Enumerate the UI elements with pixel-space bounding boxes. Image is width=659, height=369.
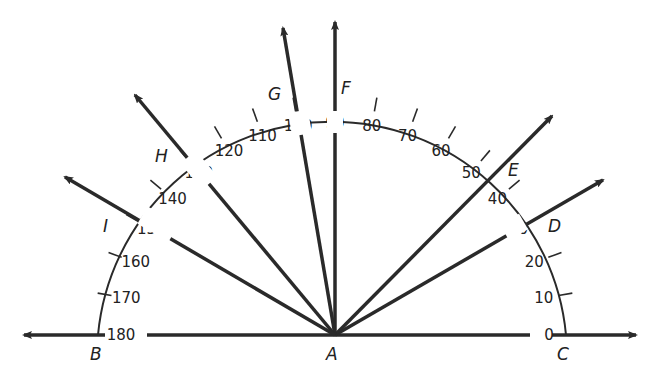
tick-mark [215, 126, 222, 138]
tick-mark [374, 98, 376, 112]
tick-label: 20 [525, 253, 544, 271]
tick-label: 70 [398, 127, 417, 145]
point-label-a: A [325, 344, 338, 364]
tick-label: 110 [248, 127, 277, 145]
tick-mark [413, 109, 418, 122]
point-label-f: F [341, 78, 351, 98]
tick-mark [150, 180, 161, 189]
tick-mark [449, 126, 456, 138]
point-label-d: D [548, 216, 561, 236]
tick-label: 50 [462, 164, 481, 182]
tick-label: 180 [107, 326, 136, 344]
tick-label: 10 [534, 289, 553, 307]
tick-label: 60 [431, 142, 450, 160]
protractor-diagram: 0102030405060708090100110120130140150160… [0, 0, 659, 369]
point-label-g: G [268, 84, 281, 104]
tick-label: 120 [215, 142, 244, 160]
tick-label: 80 [362, 117, 381, 135]
ray-i [65, 177, 335, 335]
point-label-i: I [103, 216, 108, 236]
point-label-c: C [557, 344, 569, 364]
tick-label: 0 [544, 326, 554, 344]
tick-mark [509, 180, 520, 189]
tick-mark [481, 150, 490, 161]
point-label-e: E [508, 160, 519, 180]
tick-label: 140 [158, 190, 187, 208]
tick-mark [559, 293, 573, 295]
tick-label: 160 [121, 253, 150, 271]
tick-mark [253, 109, 258, 122]
ray-g [283, 28, 335, 335]
point-label-b: B [90, 344, 102, 364]
point-label-h: H [155, 146, 168, 166]
tick-label: 170 [112, 289, 141, 307]
tick-mark [548, 253, 561, 258]
tick-label: 40 [488, 190, 507, 208]
